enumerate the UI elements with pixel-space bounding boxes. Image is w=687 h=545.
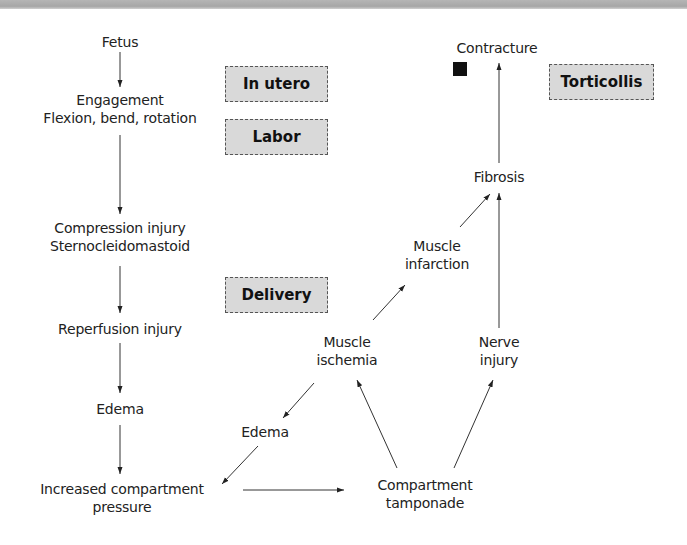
node-fibrosis: Fibrosis [474,168,525,186]
stage-label-torticollis: Torticollis [549,64,654,100]
node-ischemia-line1: Muscle [317,333,378,351]
node-nerve-line1: Nerve [479,333,520,351]
node-fibrosis-label: Fibrosis [474,168,525,186]
node-edema-left: Edema [96,400,144,418]
node-edema-mid-label: Edema [241,423,289,441]
arrow-tamponade-ischemia [357,380,397,468]
arrow-edema-icp-diag [222,446,258,484]
node-infarction-line2: infarction [405,255,469,273]
node-fetus-label: Fetus [102,33,139,51]
arrow-ischemia-edema [283,383,314,418]
node-engagement-line2: Flexion, bend, rotation [43,109,196,127]
node-nerve-injury: Nerve injury [479,333,520,369]
arrow-tamponade-nerve [454,380,493,468]
stage-label-labor: Labor [225,119,328,155]
node-nerve-line2: injury [479,351,520,369]
stage-label-in-utero: In utero [225,66,328,102]
node-engagement: Engagement Flexion, bend, rotation [43,91,196,127]
node-contracture-label: Contracture [457,39,538,57]
node-infarction-line1: Muscle [405,237,469,255]
node-compartment-tamponade: Compartment tamponade [377,476,472,512]
arrow-ischemia-infarction [373,285,405,320]
node-reperfusion-label: Reperfusion injury [58,320,182,338]
arrow-infarction-fibrosis [460,194,490,227]
node-ischemia-line2: ischemia [317,351,378,369]
node-reperfusion-injury: Reperfusion injury [58,320,182,338]
node-edema-mid: Edema [241,423,289,441]
node-fetus: Fetus [102,33,139,51]
node-icp-line2: pressure [40,498,204,516]
node-engagement-line1: Engagement [43,91,196,109]
node-compression-line2: Sternocleidomastoid [50,237,190,255]
node-compression-line1: Compression injury [50,219,190,237]
node-edema-left-label: Edema [96,400,144,418]
node-increased-compartment-pressure: Increased compartment pressure [40,480,204,516]
node-muscle-ischemia: Muscle ischemia [317,333,378,369]
node-tamponade-line1: Compartment [377,476,472,494]
node-muscle-infarction: Muscle infarction [405,237,469,273]
node-compression-injury: Compression injury Sternocleidomastoid [50,219,190,255]
node-contracture: Contracture [457,39,538,57]
node-tamponade-line2: tamponade [377,494,472,512]
stage-label-delivery: Delivery [225,277,328,313]
black-square-marker [453,62,467,76]
node-icp-line1: Increased compartment [40,480,204,498]
